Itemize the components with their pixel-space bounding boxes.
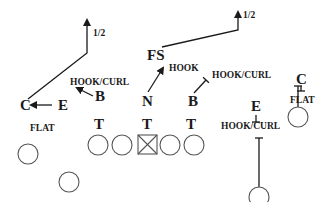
offensive-player-circle (288, 107, 308, 127)
offensive-player-circle (18, 144, 38, 164)
defender-n: N (142, 93, 153, 109)
defender-t3: T (186, 116, 196, 132)
b-right-hook-curl-route (194, 80, 206, 93)
offensive-player-circle (160, 135, 180, 155)
defense-layer: CEBFSNBTTTEC (20, 47, 307, 132)
assignment-label: HOOK/CURL (212, 70, 271, 80)
offensive-player-circle (59, 172, 79, 192)
defender-t1: T (94, 116, 104, 132)
defender-c-left: C (20, 97, 31, 113)
assignment-label: FLAT (30, 123, 55, 133)
defender-t2: T (142, 116, 152, 132)
defender-e-left: E (58, 97, 68, 113)
assignment-label: 1/2 (93, 28, 105, 38)
offensive-player-circle (112, 135, 132, 155)
assignment-labels-layer: 1/21/2HOOK/CURLHOOKHOOK/CURLFLATFLATHOOK… (30, 10, 315, 133)
assignment-label: HOOK (169, 63, 199, 73)
offensive-player-circle (88, 135, 108, 155)
defender-e-right: E (251, 98, 261, 114)
defensive-coverage-diagram: CEBFSNBTTTEC 1/21/2HOOK/CURLHOOKHOOK/CUR… (0, 0, 332, 202)
assignment-label: HOOK/CURL (70, 77, 129, 87)
c-left-deep-half-route (28, 20, 87, 99)
defender-b-right: B (188, 93, 198, 109)
offensive-player-circle (184, 135, 204, 155)
n-hook-route (148, 68, 163, 92)
defender-c-right: C (296, 71, 307, 87)
assignment-label: HOOK/CURL (221, 121, 280, 131)
b-left-hook-curl-route (77, 88, 93, 96)
assignment-label: FLAT (290, 95, 315, 105)
defender-fs: FS (147, 47, 165, 63)
defender-b-left: B (95, 88, 105, 104)
offensive-player-circle (249, 187, 269, 202)
assignment-label: 1/2 (243, 10, 255, 20)
routes-layer (28, 12, 305, 187)
fs-deep-half-route (162, 12, 238, 47)
